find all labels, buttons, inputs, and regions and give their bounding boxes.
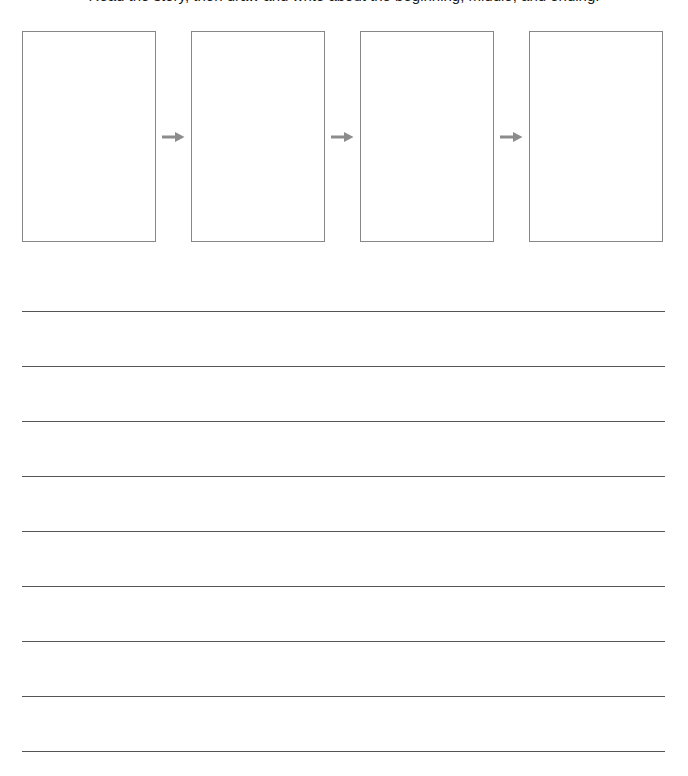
arrow-right-icon [500, 130, 523, 144]
arrow-right-icon [331, 130, 354, 144]
sequence-arrow-1 [156, 31, 191, 242]
page-title: Read the story, then draw and write abou… [0, 0, 688, 5]
arrow-right-icon [162, 130, 185, 144]
sequence-box-2[interactable] [191, 31, 325, 242]
writing-line[interactable] [22, 366, 665, 367]
writing-line[interactable] [22, 476, 665, 477]
writing-line[interactable] [22, 696, 665, 697]
writing-line[interactable] [22, 751, 665, 752]
writing-line[interactable] [22, 641, 665, 642]
writing-line[interactable] [22, 586, 665, 587]
writing-line[interactable] [22, 531, 665, 532]
writing-line[interactable] [22, 421, 665, 422]
writing-line[interactable] [22, 311, 665, 312]
sequence-strip [22, 31, 663, 242]
sequence-box-1[interactable] [22, 31, 156, 242]
sequence-arrow-3 [494, 31, 529, 242]
writing-area [22, 311, 665, 752]
sequence-arrow-2 [325, 31, 360, 242]
sequence-box-3[interactable] [360, 31, 494, 242]
sequence-box-4[interactable] [529, 31, 663, 242]
